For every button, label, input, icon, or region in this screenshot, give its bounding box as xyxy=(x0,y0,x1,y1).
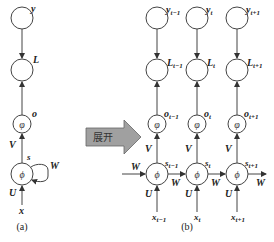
varphi-glyph: ϕ xyxy=(19,169,24,180)
svg-text:φ: φ xyxy=(194,119,200,130)
svg-text:st: st xyxy=(204,158,212,170)
caption-b: (b) xyxy=(181,221,193,233)
svg-text:ot: ot xyxy=(204,108,212,121)
svg-text:φ: φ xyxy=(234,119,240,130)
column-t-plus-1: yt+1 Lt+1 φ ot+1 V ϕ st+1 U xt+1 xyxy=(225,4,263,224)
self-loop-W xyxy=(31,164,48,181)
y-node xyxy=(11,7,33,29)
svg-text:ϕ: ϕ xyxy=(154,169,159,180)
svg-text:ot−1: ot−1 xyxy=(164,108,179,121)
svg-text:U: U xyxy=(185,188,193,199)
W-label-0: W xyxy=(131,161,141,172)
svg-text:Lt+1: Lt+1 xyxy=(246,57,263,70)
o-label: o xyxy=(32,108,37,119)
column-t: yt Lt φ ot V ϕ st U xt xyxy=(185,4,216,224)
svg-text:xt+1: xt+1 xyxy=(230,212,245,224)
folded-rnn: y L φ o V ϕ s W U x (a) xyxy=(9,3,60,233)
V-label: V xyxy=(9,139,17,150)
svg-text:ot+1: ot+1 xyxy=(244,108,258,121)
s-label: s xyxy=(26,152,31,162)
svg-text:U: U xyxy=(225,188,233,199)
W-label-2: W xyxy=(211,177,221,188)
unfold-label: 展开 xyxy=(93,132,113,143)
svg-text:V: V xyxy=(225,143,233,154)
svg-text:xt−1: xt−1 xyxy=(151,212,166,224)
svg-text:ϕ: ϕ xyxy=(194,169,199,180)
svg-text:yt: yt xyxy=(205,4,213,17)
caption-a: (a) xyxy=(16,221,27,233)
W-label-1: W xyxy=(171,177,181,188)
svg-text:φ: φ xyxy=(154,119,160,130)
y-label: y xyxy=(30,3,36,14)
unfold-arrow: 展开 xyxy=(86,120,141,154)
U-label: U xyxy=(9,187,17,198)
unfolded-rnn: yt−1 Lt−1 φ ot−1 V ϕ st−1 U xt−1 yt Lt xyxy=(122,4,266,233)
svg-text:ϕ: ϕ xyxy=(234,169,239,180)
svg-text:xt: xt xyxy=(193,212,202,224)
L-node xyxy=(11,59,33,81)
svg-text:V: V xyxy=(145,143,153,154)
L-label: L xyxy=(32,54,39,65)
column-t-minus-1: yt−1 Lt−1 φ ot−1 V ϕ st−1 U xt−1 xyxy=(145,4,183,224)
phi-glyph: φ xyxy=(19,119,25,130)
W-label-3: W xyxy=(256,177,266,188)
svg-text:U: U xyxy=(145,188,153,199)
rnn-unrolling-diagram: y L φ o V ϕ s W U x (a) 展开 yt−1 Lt−1 xyxy=(0,0,274,242)
svg-text:Lt−1: Lt−1 xyxy=(166,57,183,70)
svg-text:V: V xyxy=(185,143,193,154)
x-label: x xyxy=(18,205,24,216)
W-label: W xyxy=(50,160,60,171)
